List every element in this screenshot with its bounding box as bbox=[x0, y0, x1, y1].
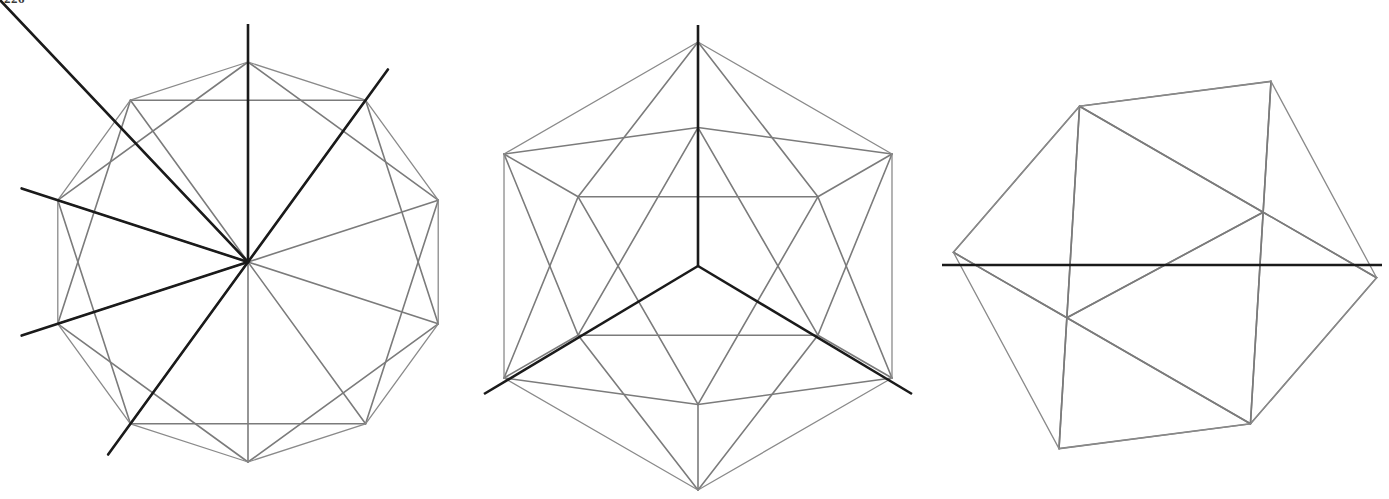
icosahedron-edge bbox=[1080, 106, 1264, 212]
silhouette-edge bbox=[1059, 424, 1250, 449]
symmetry-axis-ray bbox=[248, 69, 388, 262]
icosahedron-edge bbox=[504, 335, 578, 378]
icosahedron-edge bbox=[248, 262, 366, 424]
icosahedron-edge bbox=[1067, 106, 1080, 318]
icosahedron-edge bbox=[698, 128, 818, 336]
icosahedron-edge bbox=[504, 378, 698, 404]
icosahedron-edge bbox=[1250, 212, 1263, 424]
icosahedron-edge bbox=[58, 62, 248, 200]
icosahedron-edge bbox=[818, 154, 892, 197]
icosahedron-edge bbox=[698, 335, 818, 490]
icosahedron-edge bbox=[698, 42, 818, 197]
icosahedron-edge bbox=[504, 154, 578, 335]
silhouette-edge bbox=[1271, 81, 1377, 277]
icosahedron-edge bbox=[698, 128, 892, 154]
figure-icosahedron-twofold bbox=[942, 81, 1382, 448]
silhouette-edge bbox=[248, 424, 366, 462]
icosahedron-edge bbox=[1067, 318, 1251, 424]
icosahedron-edge bbox=[578, 335, 698, 490]
icosahedron-edge bbox=[818, 335, 892, 378]
silhouette-edge bbox=[58, 100, 131, 200]
icosahedron-edge bbox=[248, 200, 438, 262]
silhouette-edge bbox=[953, 252, 1059, 448]
icosahedron-edge bbox=[1059, 318, 1067, 449]
icosahedron-edge bbox=[818, 154, 892, 335]
figure-icosahedron-threefold bbox=[484, 25, 912, 490]
silhouette-edge bbox=[1080, 81, 1271, 106]
icosahedron-edge bbox=[504, 128, 698, 154]
icosahedron-edge bbox=[578, 42, 698, 197]
symmetry-axis-ray bbox=[108, 262, 248, 455]
silhouette-edge bbox=[698, 378, 892, 490]
silhouette-edge bbox=[698, 42, 892, 154]
icosahedron-edge bbox=[698, 378, 892, 404]
icosahedron-edge bbox=[1263, 81, 1271, 212]
silhouette-edge bbox=[130, 424, 248, 462]
silhouette-edge bbox=[58, 324, 131, 424]
icosahedron-projection-plate: 226 bbox=[0, 0, 1389, 499]
silhouette-edge bbox=[366, 100, 439, 200]
silhouette-edge bbox=[130, 62, 248, 100]
silhouette-edge bbox=[248, 62, 366, 100]
icosahedron-edge bbox=[130, 100, 248, 262]
icosahedron-edge bbox=[504, 197, 578, 378]
page-number: 226 bbox=[4, 0, 25, 5]
symmetry-axis-ray bbox=[22, 262, 248, 336]
silhouette-edge bbox=[504, 42, 698, 154]
icosahedron-edge bbox=[248, 262, 438, 324]
silhouette-edge bbox=[1250, 278, 1376, 424]
icosahedron-figures-svg bbox=[0, 0, 1389, 499]
icosahedron-edge bbox=[504, 154, 578, 197]
silhouette-edge bbox=[504, 378, 698, 490]
figure-icosahedron-fivefold bbox=[0, 0, 438, 462]
lower-left-axis-line bbox=[484, 266, 698, 394]
icosahedron-edge bbox=[366, 100, 439, 324]
lower-right-axis-line bbox=[698, 266, 912, 394]
silhouette-edge bbox=[366, 324, 439, 424]
icosahedron-edge bbox=[578, 128, 698, 336]
icosahedron-edge bbox=[818, 197, 892, 378]
silhouette-edge bbox=[953, 106, 1079, 252]
icosahedron-edge bbox=[248, 324, 438, 462]
